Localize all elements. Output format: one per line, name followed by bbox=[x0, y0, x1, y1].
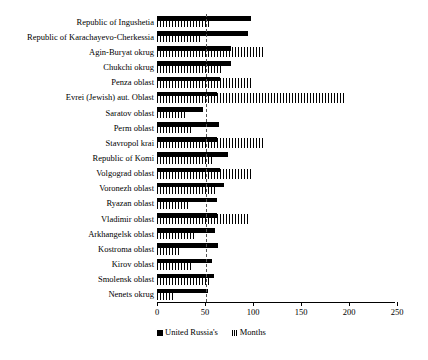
x-axis-tick-label: 250 bbox=[377, 307, 417, 317]
x-axis-tick bbox=[253, 302, 254, 306]
y-axis-label: Perm oblast bbox=[2, 123, 154, 133]
x-axis-tick-label: 50 bbox=[185, 307, 225, 317]
bar-group bbox=[157, 289, 397, 301]
y-axis-label: Saratov oblast bbox=[2, 108, 154, 118]
x-axis-tick-label: 200 bbox=[329, 307, 369, 317]
x-axis-tick bbox=[157, 302, 158, 306]
bar-group bbox=[157, 61, 397, 73]
bar-group bbox=[157, 152, 397, 164]
y-axis-label: Arkhangelsk oblast bbox=[2, 229, 154, 239]
x-axis-tick bbox=[397, 302, 398, 306]
legend-item[interactable]: Months bbox=[232, 327, 266, 338]
y-axis-label: Stavropol krai bbox=[2, 138, 154, 148]
legend-swatch-hatch-icon bbox=[232, 330, 238, 336]
bar-group bbox=[157, 92, 397, 104]
bar-united-russias bbox=[157, 77, 220, 82]
bar-united-russias bbox=[157, 168, 220, 173]
y-axis-label: Evrei (Jewish) aut. Oblast bbox=[2, 92, 154, 102]
x-axis-tick-label: 0 bbox=[137, 307, 177, 317]
bar-united-russias bbox=[157, 61, 231, 66]
bar-united-russias bbox=[157, 243, 218, 248]
bar-united-russias bbox=[157, 92, 217, 97]
bar-group bbox=[157, 213, 397, 225]
x-axis-tick-label: 100 bbox=[233, 307, 273, 317]
bar-group bbox=[157, 46, 397, 58]
bar-group bbox=[157, 198, 397, 210]
y-axis-label: Republic of Komi bbox=[2, 153, 154, 163]
bar-united-russias bbox=[157, 198, 217, 203]
bar-united-russias bbox=[157, 183, 224, 188]
bar-group bbox=[157, 122, 397, 134]
x-axis-line bbox=[157, 302, 395, 303]
bar-united-russias bbox=[157, 46, 231, 51]
y-axis-label: Republic of Karachayevo-Cherkessia bbox=[2, 32, 154, 42]
legend-swatch-solid-icon bbox=[157, 330, 163, 336]
bar-group bbox=[157, 228, 397, 240]
legend-label: Months bbox=[240, 327, 266, 338]
bar-group bbox=[157, 168, 397, 180]
bar-united-russias bbox=[157, 259, 212, 264]
bar-group bbox=[157, 274, 397, 286]
reference-line bbox=[206, 14, 207, 302]
legend-label: United Russia's bbox=[165, 327, 218, 338]
y-axis-category-labels: Republic of IngushetiaRepublic of Karach… bbox=[0, 14, 154, 302]
chart-legend: United Russia'sMonths bbox=[157, 327, 266, 338]
legend-item[interactable]: United Russia's bbox=[157, 327, 218, 338]
bar-united-russias bbox=[157, 152, 228, 157]
chart-container: Republic of IngushetiaRepublic of Karach… bbox=[0, 0, 428, 360]
y-axis-label: Republic of Ingushetia bbox=[2, 17, 154, 27]
bar-united-russias bbox=[157, 31, 248, 36]
bar-united-russias bbox=[157, 122, 219, 127]
bar-group bbox=[157, 137, 397, 149]
y-axis-label: Smolensk oblast bbox=[2, 274, 154, 284]
bar-group bbox=[157, 107, 397, 119]
x-axis-tick-label: 150 bbox=[281, 307, 321, 317]
y-axis-label: Agin-Buryat okrug bbox=[2, 47, 154, 57]
y-axis-label: Ryazan oblast bbox=[2, 198, 154, 208]
y-axis-label: Vladimir oblast bbox=[2, 214, 154, 224]
bar-group bbox=[157, 183, 397, 195]
bar-united-russias bbox=[157, 213, 217, 218]
bar-group bbox=[157, 243, 397, 255]
y-axis-label: Penza oblast bbox=[2, 77, 154, 87]
bar-group bbox=[157, 259, 397, 271]
bar-united-russias bbox=[157, 289, 208, 294]
y-axis-label: Voronezh oblast bbox=[2, 183, 154, 193]
bar-united-russias bbox=[157, 16, 251, 21]
x-axis-tick bbox=[301, 302, 302, 306]
bar-group bbox=[157, 16, 397, 28]
bar-group bbox=[157, 31, 397, 43]
x-axis-tick bbox=[205, 302, 206, 306]
y-axis-label: Nenets okrug bbox=[2, 289, 154, 299]
plot-area bbox=[157, 14, 397, 302]
bar-united-russias bbox=[157, 107, 203, 112]
bar-united-russias bbox=[157, 137, 217, 142]
y-axis-label: Kostroma oblast bbox=[2, 244, 154, 254]
y-axis-label: Chukchi okrug bbox=[2, 62, 154, 72]
x-axis-tick bbox=[349, 302, 350, 306]
y-axis-label: Kirov oblast bbox=[2, 259, 154, 269]
y-axis-label: Volgograd oblast bbox=[2, 168, 154, 178]
bar-group bbox=[157, 77, 397, 89]
